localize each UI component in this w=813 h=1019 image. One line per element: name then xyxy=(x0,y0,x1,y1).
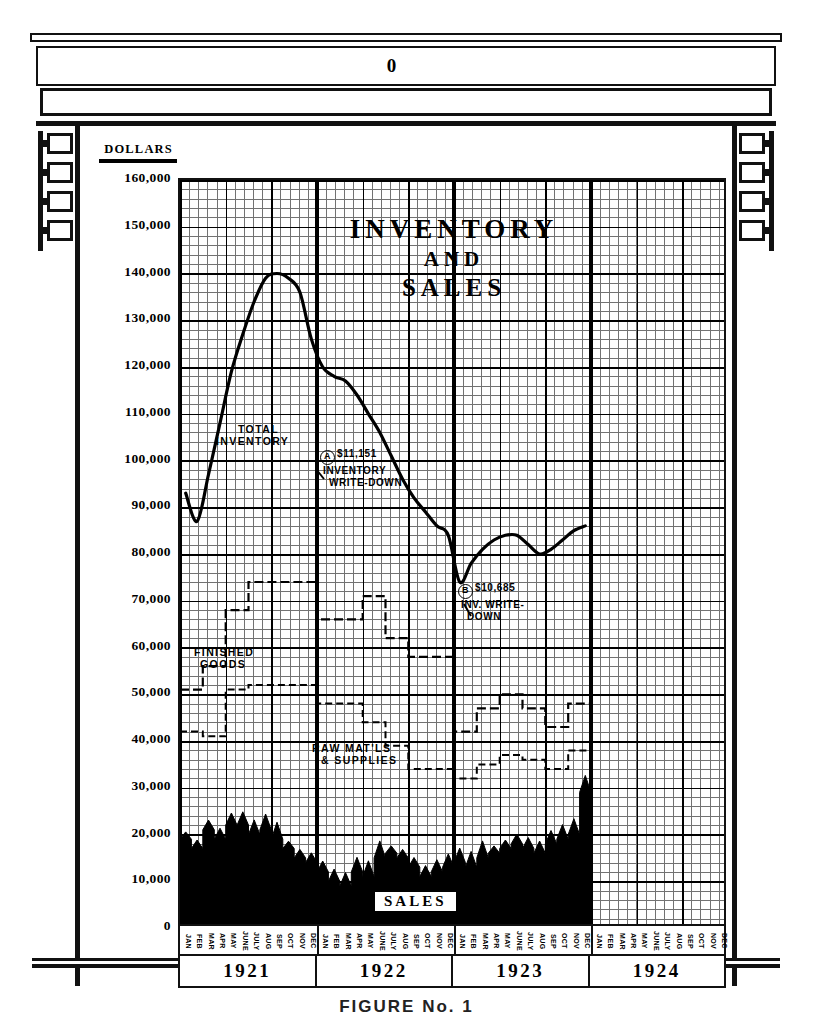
x-axis-month-label: DEC xyxy=(305,928,317,954)
bracket-nub xyxy=(763,227,770,234)
label-sales: SALES xyxy=(374,891,457,912)
frame-stile-right xyxy=(732,126,737,986)
bracket-nub xyxy=(763,169,770,176)
x-axis-month-label: DEC xyxy=(716,928,728,954)
y-axis-tick-label: 150,000 xyxy=(124,217,171,233)
x-axis-month-label: NOV xyxy=(705,928,717,954)
x-axis-year-label: 1921 xyxy=(180,956,317,986)
x-axis-month-label: DEC xyxy=(579,928,591,954)
x-axis-month-label: JUNE xyxy=(648,928,660,954)
y-axis-tick-label: 110,000 xyxy=(125,404,171,420)
x-axis-month-label: OCT xyxy=(282,928,294,954)
x-axis-month-label: MAY xyxy=(225,928,237,954)
x-axis-month-label: SEP xyxy=(408,928,420,954)
y-axis-tick-label: 80,000 xyxy=(131,544,171,560)
bracket-block xyxy=(47,133,73,154)
x-axis-month-label: MAY xyxy=(636,928,648,954)
x-axis-month-label: APR xyxy=(351,928,363,954)
y-axis-tick-label: 40,000 xyxy=(131,731,171,747)
x-axis-month-label: APR xyxy=(214,928,226,954)
x-axis-month-label: NOV xyxy=(568,928,580,954)
x-axis-month-label: JULY xyxy=(385,928,397,954)
y-axis-tick-label: 90,000 xyxy=(131,497,171,513)
y-axis-tick-label: 130,000 xyxy=(124,310,171,326)
y-axis: DOLLARS 160,000150,000140,000130,000120,… xyxy=(95,178,181,938)
figure-caption: FIGURE No. 1 xyxy=(0,997,813,1019)
x-axis-month-label: MAY xyxy=(362,928,374,954)
bracket-block xyxy=(47,162,73,183)
frame-rail xyxy=(36,121,776,126)
bracket-nub xyxy=(763,140,770,147)
x-axis-month-label: JULY xyxy=(248,928,260,954)
x-axis-year-label: 1923 xyxy=(453,956,590,986)
bracket-block xyxy=(739,133,765,154)
x-axis-month-label: NOV xyxy=(431,928,443,954)
x-axis-month-label: AUG xyxy=(397,928,409,954)
y-axis-tick-label: 10,000 xyxy=(131,871,171,887)
x-axis-month-label: SEP xyxy=(682,928,694,954)
bracket-block xyxy=(739,191,765,212)
x-axis-month-label: JUNE xyxy=(237,928,249,954)
y-axis-tick-label: 140,000 xyxy=(124,264,171,280)
chart-series-layer xyxy=(180,180,726,926)
y-axis-tick-label: 0 xyxy=(164,918,171,934)
x-axis-month-label: MAR xyxy=(614,928,626,954)
chart-grid: INVENTORY AND SALES TOTAL INVENTORY A$11… xyxy=(178,178,726,926)
y-axis-tick-label: 60,000 xyxy=(131,638,171,654)
x-axis-month-label: JUNE xyxy=(374,928,386,954)
frame-stile-left xyxy=(75,126,80,986)
y-axis-tick-label: 120,000 xyxy=(124,357,171,373)
bracket-nub xyxy=(42,227,49,234)
frame-bracket-right xyxy=(736,131,774,251)
x-axis-month-label: JUNE xyxy=(511,928,523,954)
y-axis-title-rule xyxy=(99,159,177,163)
x-axis-month-label: MAR xyxy=(477,928,489,954)
annotation-leader-lines xyxy=(316,469,471,616)
x-axis-year-separator xyxy=(591,926,593,954)
x-axis-month-label: MAR xyxy=(340,928,352,954)
x-axis-month-label: FEB xyxy=(602,928,614,954)
frame-bracket-left xyxy=(38,131,76,251)
frame-header-inner-band xyxy=(40,88,772,116)
y-axis-tick-label: 50,000 xyxy=(131,684,171,700)
x-axis-month-label: OCT xyxy=(693,928,705,954)
raw-materials-series xyxy=(180,685,591,779)
x-axis-months: JANFEBMARAPRMAYJUNEJULYAUGSEPOCTNOVDECJA… xyxy=(178,926,726,956)
bracket-block xyxy=(739,162,765,183)
finished-goods-series xyxy=(180,582,591,732)
x-axis-month-label: DEC xyxy=(442,928,454,954)
bracket-block xyxy=(739,220,765,241)
x-axis-month-label: JULY xyxy=(659,928,671,954)
x-axis-year-separator xyxy=(454,926,456,954)
y-axis-tick-label: 20,000 xyxy=(131,825,171,841)
x-axis-month-label: FEB xyxy=(465,928,477,954)
x-axis-month-label: AUG xyxy=(534,928,546,954)
total-inventory-series xyxy=(186,274,586,583)
x-axis-month-label: OCT xyxy=(556,928,568,954)
x-axis-month-label: JAN xyxy=(180,928,192,954)
x-axis-month-label: APR xyxy=(625,928,637,954)
x-axis-month-label: NOV xyxy=(294,928,306,954)
x-axis: JANFEBMARAPRMAYJUNEJULYAUGSEPOCTNOVDECJA… xyxy=(178,926,726,988)
x-axis-month-label: FEB xyxy=(328,928,340,954)
x-axis-month-label: SEP xyxy=(545,928,557,954)
bracket-block xyxy=(47,220,73,241)
bracket-nub xyxy=(763,198,770,205)
x-axis-year-label: 1924 xyxy=(590,956,725,986)
x-axis-month-label: MAY xyxy=(499,928,511,954)
x-axis-month-label: JULY xyxy=(522,928,534,954)
x-axis-year-separator xyxy=(317,926,319,954)
x-axis-month-label: AUG xyxy=(260,928,272,954)
bracket-nub xyxy=(42,140,49,147)
x-axis-month-label: MAR xyxy=(203,928,215,954)
frame-top-cap xyxy=(30,33,782,42)
y-axis-tick-label: 30,000 xyxy=(131,778,171,794)
bracket-block xyxy=(47,191,73,212)
chart-plot-area: INVENTORY AND SALES TOTAL INVENTORY A$11… xyxy=(178,178,726,926)
x-axis-month-label: FEB xyxy=(191,928,203,954)
y-axis-tick-label: 100,000 xyxy=(124,451,171,467)
bracket-nub xyxy=(42,198,49,205)
y-axis-title: DOLLARS xyxy=(104,142,173,157)
x-axis-month-label: SEP xyxy=(271,928,283,954)
frame-header-mark: 0 xyxy=(22,46,762,86)
